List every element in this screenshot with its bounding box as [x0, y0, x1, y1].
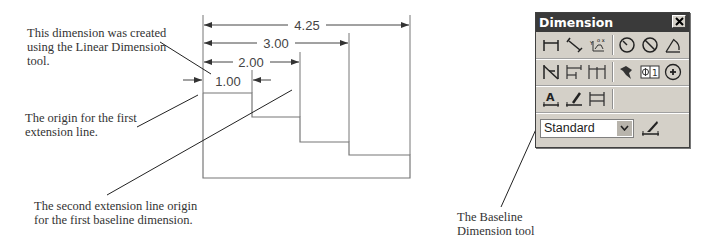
tolerance-button[interactable]: 1 [639, 61, 661, 83]
svg-text:o x: o x [597, 37, 605, 43]
continue-dimension-button[interactable] [586, 61, 608, 83]
continue-dimension-icon [587, 64, 607, 80]
svg-text:1: 1 [652, 68, 658, 78]
tolerance-icon: 1 [640, 65, 660, 79]
diameter-dimension-icon [641, 36, 659, 54]
dimension-style-button[interactable] [640, 117, 662, 139]
dimension-update-button[interactable] [586, 88, 608, 110]
quick-leader-button[interactable] [616, 61, 638, 83]
toolbar-title-bar[interactable]: Dimension [536, 13, 689, 32]
toolbar-row-2: 1 [536, 59, 689, 86]
baseline-dimension-icon [565, 64, 583, 80]
close-button[interactable] [672, 15, 686, 28]
dimension-edit-icon: A [542, 90, 560, 108]
linear-dimension-icon [542, 38, 560, 52]
angular-dimension-icon [664, 36, 682, 54]
dimension-style-value: Standard [544, 121, 595, 135]
toolbar-title: Dimension [539, 15, 613, 30]
dimension-edit-button[interactable]: A [540, 88, 562, 110]
dimension-label-4-25: 4.25 [294, 18, 319, 33]
svg-text:A: A [546, 91, 555, 104]
toolbar-separator [612, 62, 613, 82]
linear-dimension-button[interactable] [540, 34, 562, 56]
dimension-toolbar: Dimension Yo x [535, 12, 690, 148]
aligned-dimension-icon [565, 37, 583, 53]
center-mark-button[interactable] [662, 61, 684, 83]
dimension-style-icon [641, 119, 661, 137]
part-outline [203, 93, 410, 178]
dimension-update-icon [588, 91, 606, 107]
toolbar-row-3: A [536, 86, 689, 113]
ordinate-dimension-icon: Yo x [588, 37, 606, 53]
chevron-down-icon [620, 125, 629, 131]
dimension-style-select[interactable]: Standard [540, 119, 634, 138]
quick-dimension-icon [542, 63, 560, 81]
close-icon [675, 17, 684, 26]
center-mark-icon [664, 63, 682, 81]
toolbar-row-1: Yo x [536, 32, 689, 59]
dimension-label-1-00: 1.00 [215, 74, 240, 89]
radius-dimension-icon [618, 36, 636, 54]
dimension-text-edit-icon [565, 90, 583, 108]
dimension-label-3-00: 3.00 [263, 36, 288, 51]
radius-dimension-button[interactable] [616, 34, 638, 56]
toolbar-separator [612, 35, 613, 55]
leader-lines [107, 42, 555, 207]
dropdown-button[interactable] [617, 121, 632, 136]
angular-dimension-button[interactable] [662, 34, 684, 56]
aligned-dimension-button[interactable] [563, 34, 585, 56]
quick-dimension-button[interactable] [540, 61, 562, 83]
ordinate-dimension-button[interactable]: Yo x [586, 34, 608, 56]
dimension-text-edit-button[interactable] [563, 88, 585, 110]
dimension-label-2-00: 2.00 [238, 55, 263, 70]
toolbar-row-4: Standard [536, 113, 689, 143]
diameter-dimension-button[interactable] [639, 34, 661, 56]
dimension-lines [183, 25, 409, 80]
baseline-dimension-button[interactable] [563, 61, 585, 83]
quick-leader-icon [618, 63, 636, 81]
toolbar-separator [612, 89, 613, 109]
